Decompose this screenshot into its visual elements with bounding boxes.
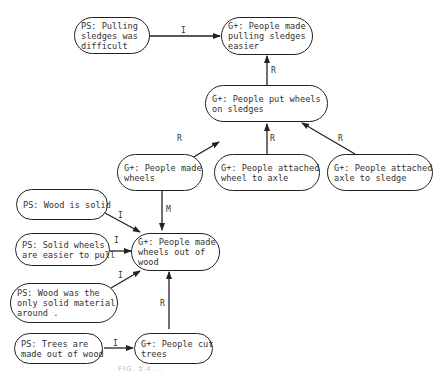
node-g-axle-to-sledge: G+: People attached axle to sledge [327,154,433,191]
edge-label: I [113,339,118,348]
edge-arrow [111,271,140,288]
edge-label: I [118,271,123,280]
node-g-wheels-out-of-wood: G+: People made wheels out of wood [131,233,220,271]
edge-label: R [177,134,182,143]
node-g-put-wheels-on-sledges: G+: People put wheels on sledges [205,85,328,122]
node-g-cut-trees: G+: People cut trees [134,333,213,364]
node-ps-trees-made-of-wood: PS: Trees are made out of wood [14,333,103,364]
node-g-pulling-easier: G+: People made pulling sledges easier [221,17,313,55]
edge-label: R [271,66,276,75]
edge-label: I [114,236,119,245]
node-g-wheel-to-axle: G+: People attached wheel to axle [214,154,320,191]
figure-caption: FIG. 5.4 ... [118,365,163,372]
edge-arrow [302,123,355,154]
edge-label: M [166,205,171,214]
edge-label: R [270,134,275,143]
edge-label: R [160,299,165,308]
node-ps-only-solid-material: PS: Wood was the only solid material aro… [10,283,118,323]
node-g-made-wheels: G+: People made wheels [117,154,203,191]
edge-label: I [181,26,186,35]
edge-label: R [338,134,343,143]
node-ps-solid-wheels-easier: PS: Solid wheels are easier to pull [15,233,110,266]
node-ps-wood-is-solid: PS: Wood is solid [16,189,108,220]
node-ps-pulling-difficult: PS: Pulling sledges was difficult [74,17,150,54]
edge-label: I [118,211,123,220]
